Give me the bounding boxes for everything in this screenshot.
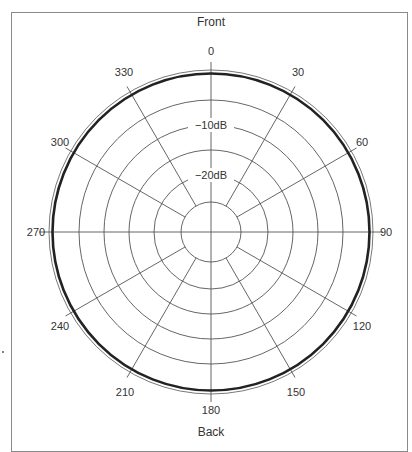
angle-label-240: 240 [51, 320, 69, 332]
spoke-30 [226, 87, 295, 207]
angle-label-90: 90 [380, 226, 392, 238]
front-label: Front [197, 15, 226, 29]
angle-label-180: 180 [202, 404, 220, 416]
level-label-10db: −10dB [195, 119, 227, 131]
spoke-240 [66, 247, 186, 316]
angle-label-120: 120 [353, 320, 371, 332]
angle-label-300: 300 [51, 136, 69, 148]
angle-label-330: 330 [115, 66, 133, 78]
angle-label-150: 150 [287, 386, 305, 398]
spoke-300 [66, 148, 186, 217]
spoke-210 [127, 258, 196, 378]
spoke-120 [237, 247, 357, 316]
angle-label-0: 0 [208, 45, 214, 57]
spoke-60 [237, 148, 357, 217]
angle-label-270: 270 [27, 226, 45, 238]
level-label-20db: −20dB [195, 169, 227, 181]
angle-label-210: 210 [116, 386, 134, 398]
spoke-150 [226, 258, 295, 378]
angle-label-60: 60 [356, 136, 368, 148]
angle-label-30: 30 [292, 66, 304, 78]
back-label: Back [198, 425, 226, 439]
scan-speck [2, 351, 4, 353]
spoke-330 [127, 87, 196, 207]
angle-spokes [39, 62, 383, 402]
